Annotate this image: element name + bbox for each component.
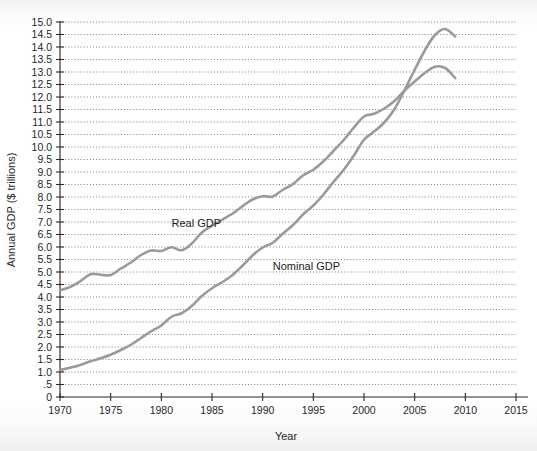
y-axis-tick-label: 13.5	[32, 53, 53, 65]
y-axis-tick-label: 14.5	[32, 28, 53, 40]
y-axis-tick-label: .5	[43, 378, 52, 390]
y-axis-tick-label: 9.0	[37, 166, 52, 178]
y-axis-tick-label: 3.5	[37, 303, 52, 315]
x-axis-title: Year	[275, 430, 298, 442]
y-axis-tick-label: 12.0	[32, 91, 53, 103]
y-axis-tick-label: 4.5	[37, 278, 52, 290]
y-axis-labels-group: 0.51.01.52.02.53.03.54.04.55.05.56.06.57…	[32, 16, 53, 403]
x-axis-tick-label: 1980	[150, 404, 174, 416]
chart-page: 0.51.01.52.02.53.03.54.04.55.05.56.06.57…	[0, 0, 537, 451]
gridlines-group	[62, 22, 516, 385]
x-axis-tick-label: 1990	[251, 404, 275, 416]
chart-svg: 0.51.01.52.02.53.03.54.04.55.05.56.06.57…	[0, 0, 537, 451]
y-axis-tick-label: 10.5	[32, 128, 53, 140]
y-axis-tick-label: 4.0	[37, 291, 52, 303]
y-axis-tick-label: 6.5	[37, 228, 52, 240]
x-axis-tick-label: 2000	[352, 404, 376, 416]
y-axis-tick-label: 2.0	[37, 341, 52, 353]
x-axis-tick-label: 1970	[48, 404, 72, 416]
y-axis-tick-label: 8.0	[37, 191, 52, 203]
x-axis-tick-label: 1985	[200, 404, 224, 416]
x-axis-tick-label: 2015	[504, 404, 528, 416]
y-axis-tick-label: 0	[46, 391, 52, 403]
y-axis-title: Annual GDP ($ trillions)	[5, 153, 17, 268]
data-series-group	[60, 29, 455, 370]
y-axis-tick-label: 7.5	[37, 203, 52, 215]
y-axis-tick-label: 10.0	[32, 141, 53, 153]
y-axis-tick-label: 13.0	[32, 66, 53, 78]
x-axis-labels-group: 1970197519801985199019952000200520102015	[48, 404, 528, 416]
y-axis-tick-label: 7.0	[37, 216, 52, 228]
y-axis-tick-label: 3.0	[37, 316, 52, 328]
y-axis-tick-label: 11.0	[32, 116, 52, 128]
x-axis-tick-label: 2010	[454, 404, 478, 416]
series-annotation-real-gdp: Real GDP	[171, 217, 221, 229]
y-axis-tick-label: 5.0	[37, 266, 52, 278]
y-axis-tick-label: 2.5	[37, 328, 52, 340]
series-line-nominal-gdp	[60, 29, 455, 370]
x-axis-tick-label: 1995	[302, 404, 326, 416]
y-axis-tick-label: 9.5	[37, 153, 52, 165]
y-axis-tick-label: 1.5	[37, 353, 52, 365]
y-axis-tick-label: 15.0	[32, 16, 53, 28]
gdp-line-chart: 0.51.01.52.02.53.03.54.04.55.05.56.06.57…	[0, 0, 537, 451]
y-axis-tick-label: 12.5	[32, 78, 53, 90]
y-axis-tick-label: 14.0	[32, 41, 53, 53]
y-axis-tick-label: 6.0	[37, 241, 52, 253]
series-line-real-gdp	[60, 66, 455, 290]
x-axis-tick-label: 2005	[403, 404, 427, 416]
series-annotation-nominal-gdp: Nominal GDP	[273, 260, 340, 272]
series-annotations-group: Real GDPNominal GDP	[171, 217, 340, 272]
y-axis-tick-label: 5.5	[37, 253, 52, 265]
y-axis-tick-label: 11.5	[32, 103, 52, 115]
y-axis-tick-label: 1.0	[37, 366, 52, 378]
x-axis-tick-label: 1975	[99, 404, 123, 416]
y-axis-tick-label: 8.5	[37, 178, 52, 190]
